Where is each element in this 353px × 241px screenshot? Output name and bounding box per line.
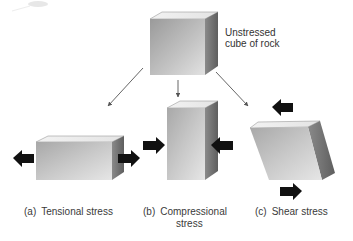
cube-side-face xyxy=(205,12,218,75)
caption-tag-c: (c) xyxy=(255,206,267,217)
unstressed-label-line2: cube of rock xyxy=(225,38,279,49)
compressional-front-face xyxy=(167,108,205,180)
unstressed-label: Unstressed cube of rock xyxy=(225,27,279,49)
caption-text-c: Shear stress xyxy=(272,206,328,217)
force-arrow-left-icon xyxy=(13,150,34,167)
arrow-to-tensional xyxy=(108,68,143,106)
unstressed-label-line1: Unstressed xyxy=(225,27,279,38)
caption-tag-b: (b) xyxy=(143,206,155,217)
tensional-block xyxy=(13,136,140,180)
diagram-canvas xyxy=(0,0,353,241)
caption-text-b-line2: stress xyxy=(176,218,203,229)
caption-shear: (c)Shear stress xyxy=(255,206,328,217)
compressional-side-face xyxy=(205,101,218,180)
caption-text-a: Tensional stress xyxy=(41,206,113,217)
cube-front-face xyxy=(150,19,205,75)
force-arrow-inward-left-icon xyxy=(143,137,165,154)
corner-artifact xyxy=(12,1,48,11)
compressional-block xyxy=(143,101,233,180)
force-arrow-shear-bottom-icon xyxy=(280,183,302,200)
caption-text-b: Compressional xyxy=(160,206,227,217)
force-arrow-shear-top-icon xyxy=(272,99,293,116)
tensional-front-face xyxy=(36,142,112,180)
unstressed-cube xyxy=(150,12,218,75)
caption-compressional: (b)Compressional xyxy=(143,206,227,217)
arrow-to-shear xyxy=(216,72,248,106)
shear-block xyxy=(250,99,335,200)
caption-tensional: (a)Tensional stress xyxy=(24,206,113,217)
stress-diagram: Unstressed cube of rock (a)Tensional str… xyxy=(0,0,353,241)
caption-tag-a: (a) xyxy=(24,206,36,217)
tensional-top-face xyxy=(36,136,124,142)
caption-compressional-line2: stress xyxy=(176,218,203,229)
